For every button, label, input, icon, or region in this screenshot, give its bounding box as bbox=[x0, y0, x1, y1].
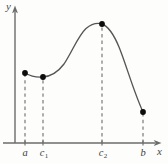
plot-canvas bbox=[0, 0, 168, 163]
tick-label-a: a bbox=[22, 148, 27, 159]
point-a bbox=[22, 70, 28, 76]
function-graph-figure: y x a c1 c2 b bbox=[0, 0, 168, 163]
point-b bbox=[140, 109, 146, 115]
tick-label-c2: c2 bbox=[99, 148, 107, 160]
x-axis bbox=[3, 140, 162, 146]
tick-label-c1: c1 bbox=[40, 148, 48, 160]
point-c2 bbox=[99, 21, 105, 27]
point-c1 bbox=[40, 74, 46, 80]
tick-label-b: b bbox=[140, 148, 145, 159]
y-axis-label: y bbox=[6, 1, 11, 12]
function-curve bbox=[25, 23, 143, 112]
marked-points bbox=[22, 21, 146, 115]
dashed-guides bbox=[25, 24, 143, 143]
x-axis-label: x bbox=[157, 146, 162, 157]
y-axis bbox=[12, 6, 18, 144]
